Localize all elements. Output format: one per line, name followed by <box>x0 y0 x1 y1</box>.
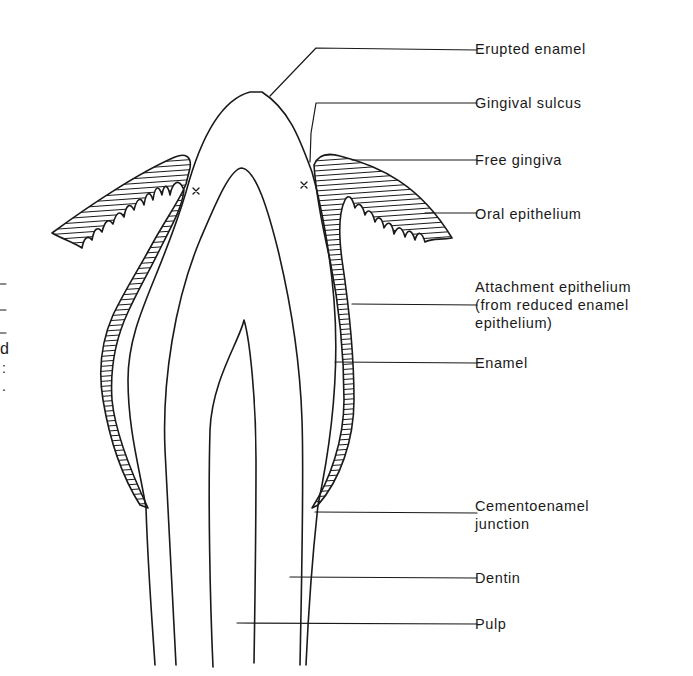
label-erupted-enamel: Erupted enamel <box>475 40 586 58</box>
label-cej-line1: Cementoenamel <box>475 497 589 515</box>
label-gingival-sulcus: Gingival sulcus <box>475 94 582 112</box>
leader-lines <box>237 48 477 624</box>
label-attachment-epithelium-line3: epithelium) <box>475 314 631 332</box>
dental-diagram: Erupted enamel Gingival sulcus Free ging… <box>0 0 693 676</box>
label-attachment-epithelium-line2: (from reduced enamel <box>475 296 631 314</box>
dentino-enamel-junction <box>165 168 303 665</box>
label-free-gingiva: Free gingiva <box>475 151 562 169</box>
label-cej-line2: junction <box>475 515 589 533</box>
label-dentin: Dentin <box>475 569 521 587</box>
label-oral-epithelium: Oral epithelium <box>475 205 582 223</box>
left-gingiva <box>52 155 190 508</box>
left-edge-dot-fragment: . <box>2 378 6 394</box>
right-gingiva <box>312 154 452 508</box>
label-attachment-epithelium-line1: Attachment epithelium <box>475 278 631 296</box>
left-edge-fragment-lines <box>0 284 6 333</box>
x-markers <box>193 182 307 194</box>
left-edge-letter-fragment: d <box>0 340 9 358</box>
pulp-outline <box>209 320 256 667</box>
label-attachment-epithelium: Attachment epithelium (from reduced enam… <box>475 278 631 332</box>
tooth-illustration <box>0 0 693 676</box>
left-edge-colon-fragment: : <box>2 360 6 376</box>
label-enamel: Enamel <box>475 354 528 372</box>
label-pulp: Pulp <box>475 615 506 633</box>
label-cementoenamel-junction: Cementoenamel junction <box>475 497 589 533</box>
